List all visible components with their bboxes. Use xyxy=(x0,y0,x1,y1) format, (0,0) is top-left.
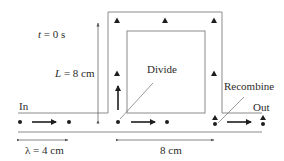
propagation-arrows xyxy=(32,86,251,122)
lower-distance-label: 8 cm xyxy=(160,144,182,156)
divide-label: Divide xyxy=(147,63,177,75)
time-label: t = 0 s xyxy=(38,28,65,40)
length-label: L = 8 cm xyxy=(55,67,95,79)
recombine-label: Recombine xyxy=(224,80,274,92)
in-label: In xyxy=(19,100,28,112)
divide-leader-line xyxy=(120,83,153,119)
time-value: = 0 s xyxy=(41,28,65,40)
length-value: = 8 cm xyxy=(61,67,94,79)
wavelength-label: λ = 4 cm xyxy=(25,144,64,156)
wave-dots xyxy=(18,120,265,126)
wave-triangles xyxy=(114,18,266,121)
out-label: Out xyxy=(253,101,270,113)
